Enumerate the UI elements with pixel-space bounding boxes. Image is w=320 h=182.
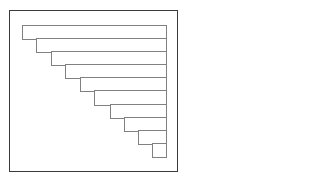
bar-10 bbox=[152, 143, 167, 158]
